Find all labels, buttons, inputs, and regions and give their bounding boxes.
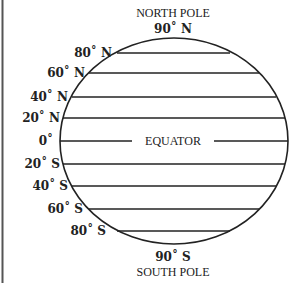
- latitude-label-40s: 40˚ S: [32, 178, 68, 193]
- south-pole-label: 90˚ S: [155, 249, 191, 264]
- latitude-label-60n: 60˚ N: [47, 65, 85, 80]
- latitude-label-20n: 20˚ N: [22, 110, 60, 125]
- latitude-label-40n: 40˚ N: [30, 89, 68, 104]
- latitude-diagram: NORTH POLE 90˚ N 90˚ S SOUTH POLE EQUATO…: [0, 0, 298, 283]
- equator-label: EQUATOR: [145, 134, 201, 148]
- north-pole-label: 90˚ N: [154, 21, 192, 36]
- latitude-label-80s: 80˚ S: [70, 223, 106, 238]
- north-pole-title: NORTH POLE: [136, 6, 210, 20]
- latitude-label-80n: 80˚ N: [74, 45, 112, 60]
- latitude-label-60s: 60˚ S: [47, 201, 83, 216]
- latitude-label-20s: 20˚ S: [24, 156, 60, 171]
- south-pole-title: SOUTH POLE: [136, 265, 209, 279]
- latitude-label-0: 0˚: [39, 133, 53, 148]
